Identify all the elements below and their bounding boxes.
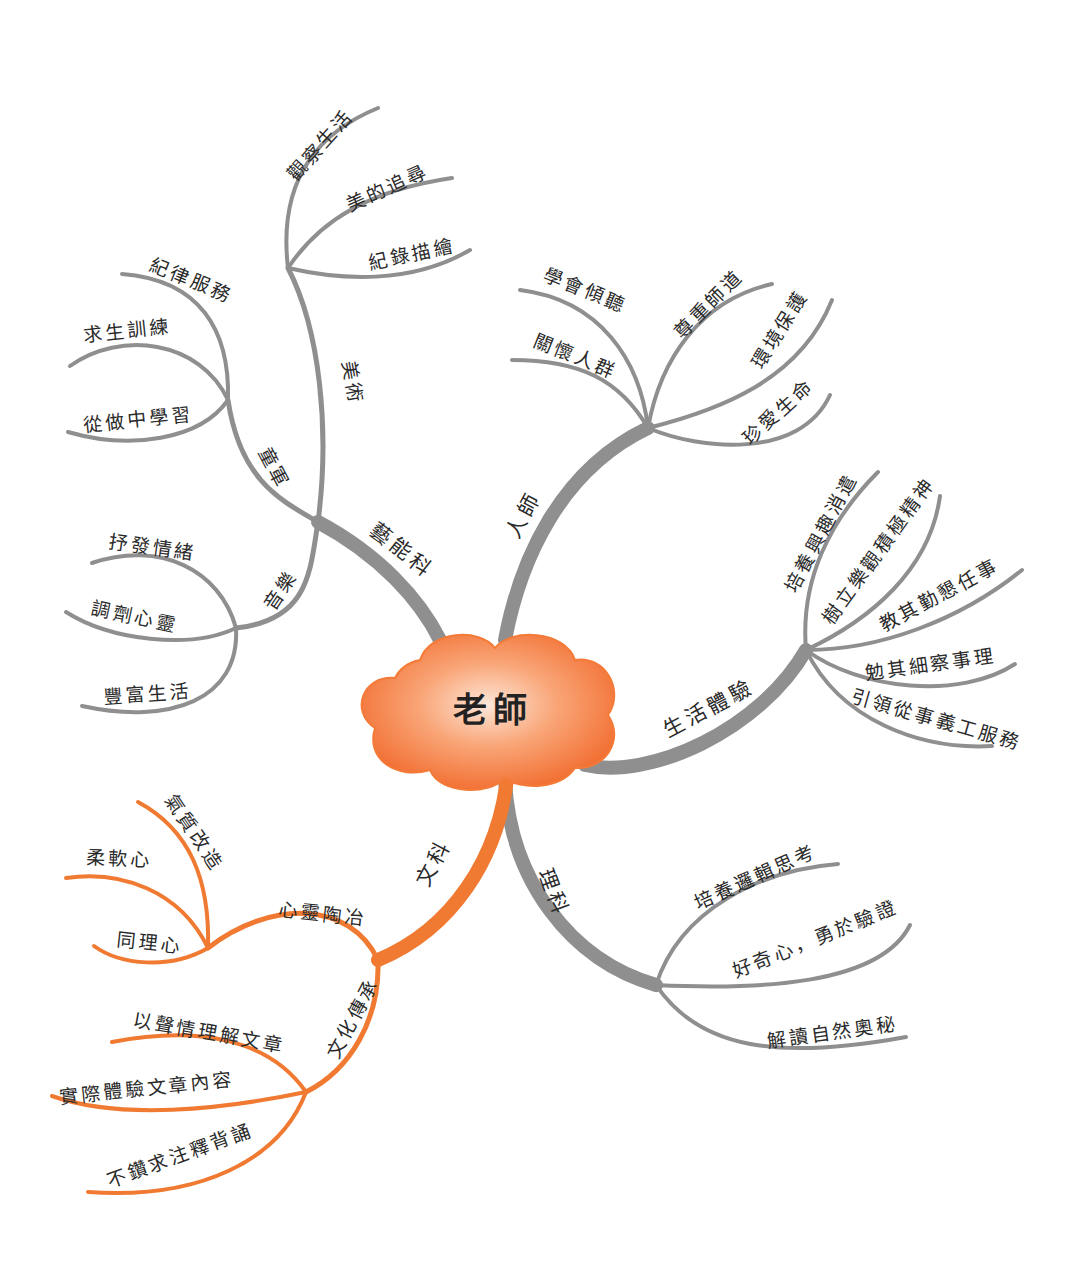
label-tongjun: 童軍: [254, 444, 294, 493]
label-shengqing: 以聲情理解文章: [131, 1008, 286, 1056]
center-label: 老師: [453, 690, 533, 730]
label-xicha: 勉其細察事理: [863, 644, 997, 684]
branch-wenke: [52, 770, 508, 1193]
label-congzuo: 從做中學習: [82, 403, 194, 436]
twig-huanjing: [648, 300, 832, 428]
label-jilu: 紀錄描繪: [366, 234, 457, 274]
label-tongli: 同理心: [116, 928, 184, 957]
label-fengfu: 豐富生活: [103, 680, 192, 708]
label-haoqi: 好奇心，勇於驗證: [729, 895, 900, 981]
label-rouruan: 柔軟心: [86, 846, 153, 870]
label-shiji: 實際體驗文章內容: [58, 1068, 235, 1108]
label-huanjing: 環境保護: [747, 286, 812, 372]
label-qiusheng: 求生訓練: [82, 315, 172, 346]
label-wenke: 文科: [411, 835, 456, 890]
twig-qiusheng: [70, 345, 228, 400]
label-qinken: 教其勤懇任事: [876, 554, 1003, 635]
center-node: 老師: [362, 635, 615, 790]
label-xinling: 心靈陶冶: [278, 898, 368, 929]
label-yinengke: 藝能科: [365, 518, 439, 583]
label-zunzhong: 尊重師道: [669, 265, 747, 343]
connector-meishu: [288, 268, 323, 522]
label-meishu: 美術: [338, 359, 367, 406]
label-luoji: 培養邏輯思考: [691, 840, 821, 914]
label-yinyue: 音樂: [259, 565, 302, 614]
label-bucuan: 不鑽求注釋背誦: [104, 1118, 256, 1191]
label-guanhuai: 關懷人群: [531, 329, 621, 382]
label-shufa: 抒發情緒: [107, 530, 197, 564]
trunk-like: [505, 780, 656, 985]
twig-guanhuai: [512, 360, 648, 428]
mind-map: 老師 藝能科 人師 生活體驗 理科 文科 美術 觀察生活 美的追尋 紀錄描繪 童…: [0, 0, 1081, 1264]
label-guancha: 觀察生活: [283, 105, 358, 185]
label-qingting: 學會傾聽: [541, 263, 631, 316]
label-meide: 美的追尋: [343, 160, 432, 216]
